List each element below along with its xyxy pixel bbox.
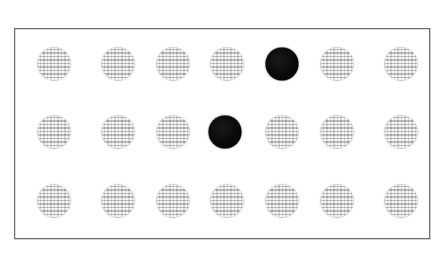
distractor-disk xyxy=(266,185,299,218)
distractor-disk xyxy=(102,116,135,149)
distractor-disk xyxy=(38,116,71,149)
distractor-disk xyxy=(321,48,354,81)
distractor-disk xyxy=(38,185,71,218)
stimulus-panel xyxy=(14,28,430,239)
target-disk[interactable] xyxy=(266,48,299,81)
distractor-disk xyxy=(211,185,244,218)
distractor-disk xyxy=(157,48,190,81)
distractor-disk xyxy=(321,185,354,218)
distractor-disk xyxy=(157,116,190,149)
distractor-disk xyxy=(266,116,299,149)
distractor-disk xyxy=(321,116,354,149)
distractor-disk xyxy=(211,48,244,81)
distractor-disk xyxy=(385,116,418,149)
distractor-disk xyxy=(157,185,190,218)
item-grid xyxy=(15,29,429,238)
distractor-disk xyxy=(385,48,418,81)
distractor-disk xyxy=(102,185,135,218)
distractor-disk xyxy=(102,48,135,81)
distractor-disk xyxy=(385,185,418,218)
target-disk[interactable] xyxy=(209,116,242,149)
figure-canvas xyxy=(0,0,446,254)
distractor-disk xyxy=(38,48,71,81)
